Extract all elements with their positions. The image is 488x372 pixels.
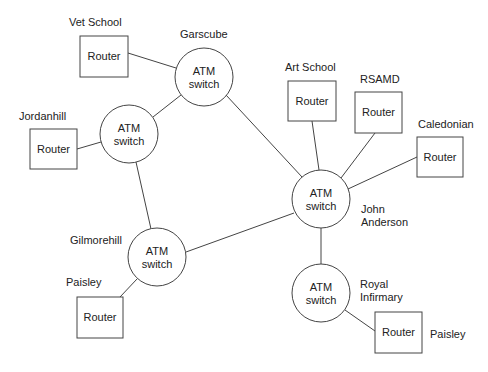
link-jordanhill-router <box>77 142 101 149</box>
vet-school-router-label: Router <box>80 50 128 63</box>
site-label-art-school: Art School <box>285 61 336 74</box>
site-label-john-anderson: JohnAnderson <box>361 203 408 229</box>
site-label-paisley-right: Paisley <box>430 328 465 341</box>
site-label-gilmorehill: Gilmorehill <box>70 234 122 247</box>
art-school-router-label: Router <box>288 95 336 108</box>
site-label-paisley-left: Paisley <box>66 276 101 289</box>
paisley-left-router-label: Router <box>77 311 123 324</box>
site-label-rsamd: RSAMD <box>360 73 400 86</box>
network-diagram <box>0 0 488 372</box>
link-caledonian-johnanderson <box>348 157 417 189</box>
paisley-right-router-label: Router <box>375 326 422 339</box>
link-garscube-jordanhill <box>153 95 181 117</box>
gilmorehill-switch-label: ATMswitch <box>137 245 177 271</box>
site-label-caledonian: Caledonian <box>418 118 474 131</box>
royal-infirmary-switch-label: ATMswitch <box>301 281 341 307</box>
link-royal-router <box>345 310 375 331</box>
site-label-vet-school: Vet School <box>69 16 122 29</box>
link-jordanhill-gilmorehill <box>136 162 151 229</box>
site-label-jordanhill: Jordanhill <box>19 110 66 123</box>
link-vet-garscube <box>128 53 176 68</box>
jordanhill-switch-label: ATMswitch <box>109 122 149 148</box>
site-label-garscube: Garscube <box>180 28 228 41</box>
link-rsamd-johnanderson <box>341 133 375 178</box>
site-label-royal-infirmary: RoyalInfirmary <box>360 278 403 304</box>
link-gilmorehill-johnanderson <box>186 213 294 252</box>
rsamd-router-label: Router <box>355 106 402 119</box>
link-gilmorehill-router <box>120 279 137 297</box>
jordanhill-router-label: Router <box>30 143 77 156</box>
garscube-switch-label: ATMswitch <box>184 65 224 91</box>
link-artschool-johnanderson <box>312 121 319 170</box>
caledonian-router-label: Router <box>417 151 463 164</box>
john-anderson-switch-label: ATMswitch <box>301 187 341 213</box>
